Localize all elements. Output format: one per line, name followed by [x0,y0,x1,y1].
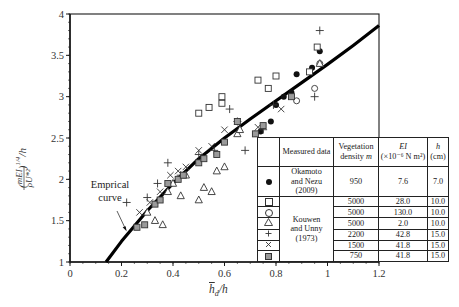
data-point-open-triangle [195,196,202,203]
legend-ei: 42.8 [379,229,428,240]
data-point-gray-square [260,123,266,129]
legend-group-kouwen-line1: Kouwen [281,215,332,224]
data-point-gray-square [252,131,258,137]
data-point-plus [241,146,249,154]
data-point-open-square [219,94,225,100]
data-point-open-square [219,100,225,106]
data-point-open-triangle [151,217,158,224]
legend-group-okamoto-line2: and Nezu (2009) [281,177,332,196]
data-point-open-triangle [159,221,166,228]
y-tick-label: 1 [59,257,64,268]
legend-ei: 41.8 [379,240,428,251]
legend-header-h: h (cm) [428,138,449,167]
data-point-open-triangle [213,167,220,174]
y-tick-label: 1.5 [51,215,64,226]
data-point-open-circle [312,85,318,91]
data-point-gray-square [222,139,228,145]
legend-density: 5000 [334,196,379,207]
legend-density: 950 [334,166,379,196]
legend-header-h-line1: h [429,142,447,151]
legend-density: 2200 [334,229,379,240]
legend-header-symbol [258,138,280,167]
data-point-filled-circle [294,71,300,77]
x-axis-title: hd/h [209,283,228,298]
legend-h: 10.0 [428,218,449,230]
data-point-filled-circle [281,94,287,100]
data-point-filled-circle [268,118,274,124]
y-tick-label: 3 [59,91,64,102]
x-tick-label: 0.8 [269,268,282,279]
data-point-cross [278,106,284,112]
legend-header-density-m: m [366,152,372,161]
y-tick-label: 2 [59,174,64,185]
data-point-open-square [273,73,279,79]
legend-group-okamoto-line1: Okamoto [281,167,332,176]
data-point-open-square [206,104,212,110]
legend-h: 15.0 [428,229,449,240]
legend-header-ei: EI (×10⁻⁶ N m²) [379,138,428,167]
data-point-gray-square [142,222,148,228]
legend-h: 10.0 [428,196,449,207]
x-tick-label: 0.4 [166,268,180,279]
y-axis-title: (mEIρU*²)1/4/h [14,148,34,190]
data-point-open-triangle [221,163,228,170]
legend-density: 5000 [334,218,379,230]
data-point-cross [167,172,173,178]
data-point-gray-square [214,152,220,158]
data-point-cross [136,209,142,215]
data-point-plus [316,27,324,35]
legend-header-density-line2: density [340,152,364,161]
legend-h: 15.0 [428,251,449,262]
data-point-open-triangle [177,192,184,199]
x-tick-label: 0.6 [218,268,231,279]
legend-symbol-open-circle-icon [258,207,280,218]
data-point-plus [311,93,319,101]
annotation-arrow [117,211,127,231]
data-point-cross [157,189,163,195]
x-tick-label: 1.2 [372,268,385,279]
empirical-curve-annotation: Emprical curve [80,179,140,204]
y-tick-label: 2.5 [51,133,64,144]
y-tick-label: 4 [59,9,65,20]
data-point-open-triangle [208,188,215,195]
x-tick-label: 0.2 [115,268,128,279]
x-axis-title-rest: /h [219,283,228,295]
legend-group-kouwen-line2: and Unny (1973) [281,224,332,243]
legend-symbol-filled-circle-icon [258,166,280,196]
legend-symbol-cross-icon [258,240,280,251]
data-point-cross [221,127,227,133]
data-point-open-square [314,44,320,50]
legend-ei: 2.0 [379,218,428,230]
data-point-gray-square [180,172,186,178]
data-point-gray-square [165,180,171,186]
data-point-open-square [196,110,202,116]
data-point-gray-square [201,156,207,162]
annotation-line2: curve [80,192,140,205]
legend-header-ei-line1: EI [380,142,426,151]
data-point-open-square [255,77,261,83]
legend-h: 15.0 [428,240,449,251]
data-point-gray-square [288,94,294,100]
legend-ei: 41.8 [379,251,428,262]
legend-symbol-open-square-icon [258,196,280,207]
legend-ei: 28.0 [379,196,428,207]
data-point-gray-square [134,224,140,230]
data-point-gray-square [234,118,240,124]
legend-group-kouwen: Kouwen and Unny (1973) [280,196,334,261]
legend-density: 750 [334,251,379,262]
data-point-plus [164,159,172,167]
legend-density: 5000 [334,207,379,218]
x-tick-label: 0 [67,268,72,279]
legend-symbol-open-triangle-icon [258,218,280,230]
legend-header-measured: Measured data [280,138,334,167]
legend-h: 7.0 [428,166,449,196]
data-point-open-triangle [200,184,207,191]
legend-ei: 130.0 [379,207,428,218]
data-point-plus [154,179,162,187]
legend-h: 10.0 [428,207,449,218]
legend-row: Okamoto and Nezu (2009) 950 7.6 7.0 [258,166,449,196]
legend-ei: 7.6 [379,166,428,196]
legend-header-density-line1: Vegetation [335,142,377,151]
legend-header-row: Measured data Vegetation density m EI (×… [258,138,449,167]
data-point-open-square [265,85,271,91]
